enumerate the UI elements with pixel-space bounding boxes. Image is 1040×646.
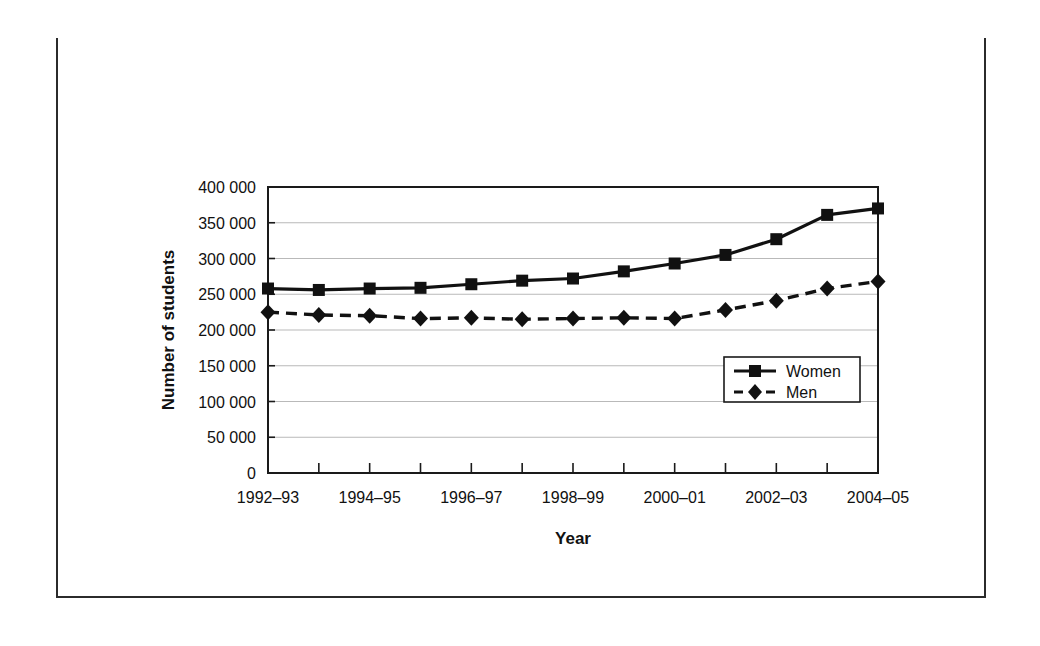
y-tick-label: 50 000 <box>207 429 256 446</box>
y-tick-labels: 050 000100 000150 000200 000250 000300 0… <box>198 179 256 482</box>
y-tick-label: 100 000 <box>198 394 256 411</box>
data-point-men <box>718 302 733 318</box>
chart-legend: WomenMen <box>724 357 860 402</box>
data-point-women <box>669 258 681 270</box>
data-point-men <box>413 311 428 327</box>
y-tick-label: 0 <box>247 465 256 482</box>
x-tick-label: 1992–93 <box>237 489 299 506</box>
x-tick-label: 1996–97 <box>440 489 502 506</box>
x-tick-label: 2000–01 <box>644 489 706 506</box>
data-point-women <box>872 202 884 214</box>
y-tick-label: 200 000 <box>198 322 256 339</box>
data-point-women <box>618 265 630 277</box>
legend-label-men: Men <box>786 384 817 401</box>
chart-container: 050 000100 000150 000200 000250 000300 0… <box>56 129 986 598</box>
x-tick-labels: 1992–931994–951996–971998–992000–012002–… <box>237 489 909 506</box>
data-point-women <box>720 249 732 261</box>
data-point-women <box>364 283 376 295</box>
data-point-women <box>465 278 477 290</box>
data-point-men <box>616 310 631 326</box>
data-point-women <box>262 283 274 295</box>
data-point-men <box>566 311 581 327</box>
data-point-women <box>313 284 325 296</box>
x-tick-label: 2004–05 <box>847 489 909 506</box>
data-point-women <box>516 275 528 287</box>
data-point-men <box>311 307 326 323</box>
data-point-women <box>821 209 833 221</box>
data-point-women <box>567 273 579 285</box>
x-tick-label: 1998–99 <box>542 489 604 506</box>
data-point-men <box>362 308 377 324</box>
y-tick-label: 300 000 <box>198 251 256 268</box>
y-axis-title: Number of students <box>159 250 178 411</box>
data-point-men <box>464 310 479 326</box>
x-axis-title: Year <box>555 529 591 548</box>
data-point-women <box>415 282 427 294</box>
y-tick-label: 400 000 <box>198 179 256 196</box>
data-point-men <box>769 293 784 309</box>
y-tick-label: 250 000 <box>198 286 256 303</box>
y-tick-label: 150 000 <box>198 358 256 375</box>
legend-label-women: Women <box>786 363 841 380</box>
data-point-men <box>261 304 276 320</box>
x-tick-label: 1994–95 <box>339 489 401 506</box>
data-point-women <box>770 233 782 245</box>
y-tick-label: 350 000 <box>198 215 256 232</box>
data-series-group <box>261 202 886 327</box>
x-tick-label: 2002–03 <box>745 489 807 506</box>
data-point-men <box>871 273 886 289</box>
gridlines-group <box>268 223 878 438</box>
line-chart: 050 000100 000150 000200 000250 000300 0… <box>56 129 986 598</box>
data-point-men <box>515 311 530 327</box>
legend-marker-women <box>749 365 761 377</box>
data-point-men <box>667 311 682 327</box>
